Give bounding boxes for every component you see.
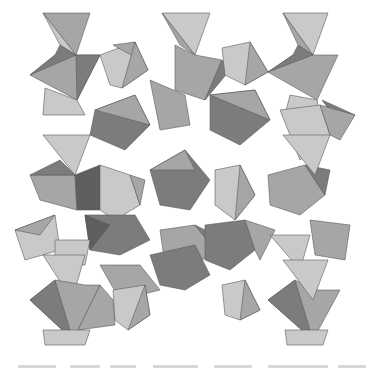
caption-text-fragment <box>70 365 100 368</box>
polyhedral-structure-figure <box>0 0 370 352</box>
polyhedron-face <box>30 175 77 210</box>
polyhedron-face <box>100 165 140 220</box>
polyhedron-face <box>76 55 100 100</box>
polyhedron-face <box>150 150 195 170</box>
polyhedron-face <box>75 165 100 210</box>
figure-caption <box>18 362 368 372</box>
polyhedron-face <box>310 220 350 260</box>
caption-text-fragment <box>268 365 328 368</box>
caption-text-fragment <box>214 365 252 368</box>
caption-text-fragment <box>338 365 366 368</box>
polyhedron-face <box>175 45 222 100</box>
polyhedron-face <box>285 330 328 345</box>
polyhedron-face <box>268 55 338 100</box>
caption-text-fragment <box>18 365 56 368</box>
caption-text-fragment <box>153 365 198 368</box>
polyhedron-face <box>43 330 90 345</box>
caption-text-fragment <box>110 365 136 368</box>
polyhedra-svg <box>0 0 370 352</box>
